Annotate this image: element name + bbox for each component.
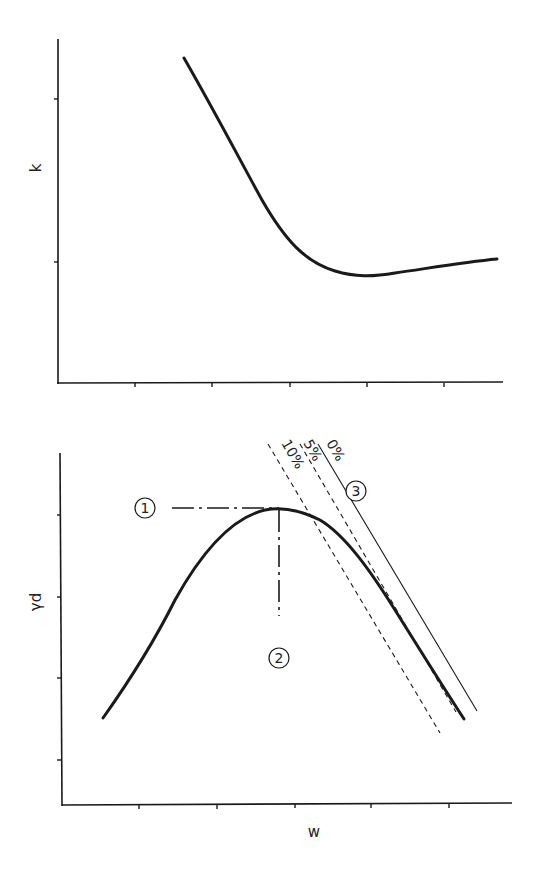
- compaction-curve: [103, 509, 464, 719]
- annotation-1: 1: [135, 498, 155, 518]
- k-curve: [184, 58, 497, 276]
- figure: k γd w 10% 5% 0%: [0, 0, 539, 869]
- bottom-y-label: γd: [27, 593, 45, 611]
- svg-text:3: 3: [352, 483, 361, 499]
- bottom-x-axis: [62, 803, 512, 805]
- top-x-axis: [57, 382, 503, 383]
- top-chart: k: [27, 39, 503, 387]
- line-0pct: [318, 444, 477, 711]
- annotation-2: 2: [269, 648, 289, 668]
- bottom-chart: γd w 10% 5% 0% 1 2 3: [27, 437, 512, 842]
- annotation-3: 3: [346, 481, 366, 501]
- svg-text:2: 2: [275, 650, 284, 666]
- top-y-label: k: [27, 163, 45, 172]
- bottom-y-axis: [60, 453, 62, 806]
- svg-text:1: 1: [141, 500, 150, 516]
- bottom-x-label: w: [308, 823, 320, 841]
